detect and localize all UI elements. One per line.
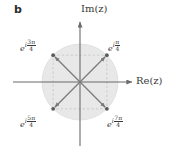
root-label-7pi-over-4: ei7π4 — [107, 115, 123, 129]
real-axis-label: Re(z) — [136, 76, 163, 86]
point-3pi-over-4 — [51, 53, 55, 57]
point-7pi-over-4 — [105, 107, 109, 111]
root-label-fraction: 7π4 — [114, 115, 123, 129]
root-label-numerator: π — [115, 39, 120, 45]
root-label-denominator: 4 — [27, 45, 36, 52]
root-label-numerator: 3π — [27, 39, 36, 45]
root-label-5pi-over-4: ei5π4 — [20, 115, 36, 129]
root-label-pi-over-4: eiπ4 — [108, 39, 120, 53]
root-label-fraction: 5π4 — [27, 115, 36, 129]
root-label-numerator: 7π — [114, 115, 123, 121]
root-label-numerator: 5π — [27, 115, 36, 121]
root-label-denominator: 4 — [27, 121, 36, 128]
point-5pi-over-4 — [51, 107, 55, 111]
complex-plane-figure: b Im(z) Re(z) eiπ4 ei3π4 ei5π4 ei7π4 — [0, 0, 173, 155]
root-label-denominator: 4 — [114, 121, 123, 128]
point-pi-over-4 — [105, 53, 109, 57]
root-label-fraction: 3π4 — [27, 39, 36, 53]
imaginary-axis-label: Im(z) — [81, 4, 108, 14]
panel-label-b: b — [14, 4, 22, 15]
root-label-3pi-over-4: ei3π4 — [20, 39, 36, 53]
root-label-denominator: 4 — [115, 45, 120, 52]
root-label-fraction: π4 — [115, 39, 120, 53]
